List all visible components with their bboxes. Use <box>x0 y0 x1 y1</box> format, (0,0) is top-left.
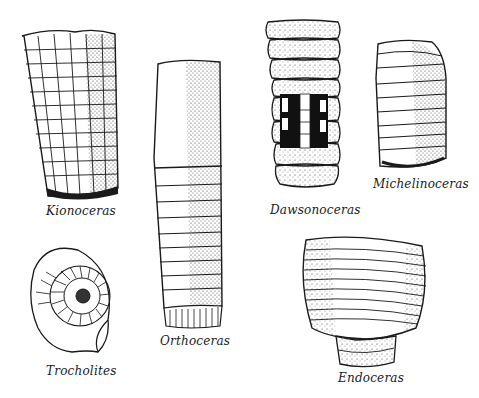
endoceras-shell <box>296 232 436 372</box>
label-dawsonoceras: Dawsonoceras <box>270 203 361 217</box>
orthoceras-drawing <box>150 58 230 333</box>
kionoceras-shell <box>20 28 120 203</box>
orthoceras-shell <box>150 58 230 333</box>
label-endoceras: Endoceras <box>338 371 404 385</box>
michelinoceras-shell <box>372 38 452 173</box>
trocholites-shell <box>26 240 116 360</box>
kionoceras-drawing <box>20 28 120 203</box>
fossil-plate: Kionoceras Orthoceras <box>0 0 479 398</box>
label-orthoceras: Orthoceras <box>160 334 230 348</box>
dawsonoceras-shell <box>264 18 344 188</box>
michelinoceras-drawing <box>372 38 452 173</box>
endoceras-drawing <box>296 232 436 372</box>
label-trocholites: Trocholites <box>46 364 117 378</box>
label-kionoceras: Kionoceras <box>46 204 116 218</box>
label-michelinoceras: Michelinoceras <box>373 177 469 191</box>
trocholites-drawing <box>26 240 116 360</box>
dawsonoceras-drawing <box>264 18 344 188</box>
